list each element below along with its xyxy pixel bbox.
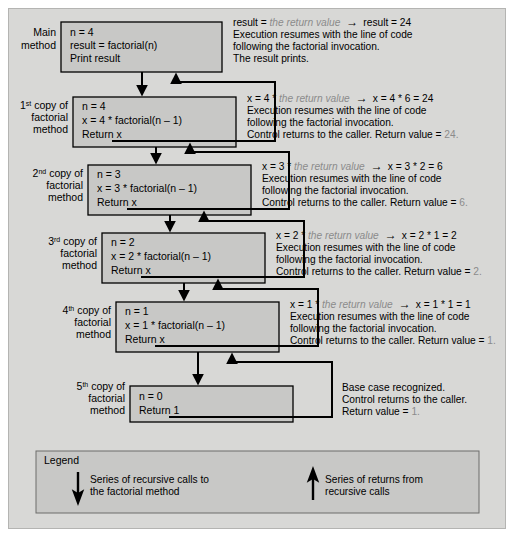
frame-code-copy2-2: Return x [97,196,137,208]
note-copy3-line2: Execution resumes with the line of code [276,242,456,253]
note-copy4-line1: x = 1 * the return value→x = 1 * 1 = 1 [290,297,471,311]
frame-label-copy1-line2: factorial [31,111,68,123]
frame-label-main-line1: Main [33,26,56,38]
frame-code-copy3-2: Return x [111,264,151,276]
note-copy3-line1: x = 2 * the return value→x = 2 * 1 = 2 [276,228,457,242]
note-copy5-line1: Base case recognized. [342,382,445,393]
stack-frame-main: Main method n = 4 result = factorial(n) … [21,22,222,72]
figure-root: Main method n = 4 result = factorial(n) … [0,0,516,539]
legend-title: Legend [44,454,79,466]
note-copy4-line3: following the factorial invocation. [290,323,437,334]
note-copy2-line4: Control returns to the caller. Return va… [262,197,468,208]
legend-down-text-line1: Series of recursive calls to [90,474,209,485]
frame-label-copy2-line1: 2nd copy of [33,167,83,179]
frame-label-copy3-line2: factorial [60,247,97,259]
legend: Legend Series of recursive calls to the … [36,451,479,513]
note-copy1-line4: Control returns to the caller. Return va… [247,129,459,140]
frame-code-main-2: Print result [70,52,120,64]
note-copy4-line2: Execution resumes with the line of code [290,311,470,322]
stack-frame-copy2: 2nd copy of factorial method n = 3 x = 3… [33,165,251,215]
frame-code-copy3-1: x = 2 * factorial(n – 1) [111,250,211,262]
frame-code-copy1-2: Return x [82,128,122,140]
note-main-line3: following the factorial invocation. [233,41,380,52]
frame-label-copy1-line1: 1st copy of [20,99,68,111]
frame-label-copy4-line3: method [76,328,111,340]
frame-label-copy3-line1: 3rd copy of [48,235,97,247]
stack-frame-copy4: 4th copy of factorial method n = 1 x = 1… [63,302,279,352]
frame-code-copy5-0: n = 0 [139,390,163,402]
note-copy1-line2: Execution resumes with the line of code [247,105,427,116]
stack-frame-copy5: 5th copy of factorial method n = 0 Retur… [77,380,293,422]
frame-code-main-0: n = 4 [70,26,94,38]
note-copy1-line1: x = 4 * the return value→x = 4 * 6 = 24 [247,91,434,105]
note-copy3-line4: Control returns to the caller. Return va… [276,266,482,277]
note-copy5-line2: Control returns to the caller. [342,394,467,405]
note-copy5-line3: Return value = 1. [342,406,420,417]
diagram-canvas: Main method n = 4 result = factorial(n) … [0,0,516,539]
note-main-line2: Execution resumes with the line of code [233,29,413,40]
frame-label-copy4-line1: 4th copy of [63,304,112,316]
note-copy2: x = 3 * the return value→x = 3 * 2 = 6 E… [262,159,468,208]
note-copy1: x = 4 * the return value→x = 4 * 6 = 24 … [247,91,459,140]
note-copy2-line1: x = 3 * the return value→x = 3 * 2 = 6 [262,159,443,173]
note-copy1-line3: following the factorial invocation. [247,117,394,128]
frame-label-copy4-line2: factorial [74,316,111,328]
frame-code-copy5-1: Return 1 [139,404,179,416]
note-copy2-line3: following the factorial invocation. [262,185,409,196]
frame-code-copy4-1: x = 1 * factorial(n – 1) [125,319,225,331]
frame-label-copy5-line3: method [90,404,125,416]
note-copy3: x = 2 * the return value→x = 2 * 1 = 2 E… [276,228,482,277]
frame-label-copy3-line3: method [62,259,97,271]
note-copy3-line3: following the factorial invocation. [276,254,423,265]
frame-label-copy5-line2: factorial [88,392,125,404]
frame-label-copy2-line2: factorial [46,179,83,191]
frame-code-copy3-0: n = 2 [111,236,135,248]
note-copy4: x = 1 * the return value→x = 1 * 1 = 1 E… [290,297,496,346]
frame-code-copy2-1: x = 3 * factorial(n – 1) [97,182,197,194]
frame-code-main-1: result = factorial(n) [70,39,157,51]
legend-up-text-line1: Series of returns from [325,474,423,485]
legend-up-text-line2: recursive calls [325,486,390,497]
frame-code-copy4-2: Return x [125,333,165,345]
stack-frame-copy1: 1st copy of factorial method n = 4 x = 4… [20,97,236,147]
frame-label-main-line2: method [21,39,56,51]
frame-code-copy1-1: x = 4 * factorial(n – 1) [82,114,182,126]
frame-code-copy4-0: n = 1 [125,305,149,317]
note-copy5: Base case recognized. Control returns to… [342,382,467,417]
note-copy2-line2: Execution resumes with the line of code [262,173,442,184]
frame-label-copy1-line3: method [33,123,68,135]
note-main: result = the return value→result = 24 Ex… [233,15,413,64]
frame-label-copy5-line1: 5th copy of [77,380,126,392]
legend-down-text-line2: the factorial method [90,486,180,497]
note-main-line4: The result prints. [233,53,309,64]
stack-frame-copy3: 3rd copy of factorial method n = 2 x = 2… [48,233,265,283]
frame-code-copy2-0: n = 3 [97,168,121,180]
note-main-line1: result = the return value→result = 24 [233,15,412,29]
note-copy4-line4: Control returns to the caller. Return va… [290,335,496,346]
frame-code-copy1-0: n = 4 [82,100,106,112]
frame-label-copy2-line3: method [48,191,83,203]
